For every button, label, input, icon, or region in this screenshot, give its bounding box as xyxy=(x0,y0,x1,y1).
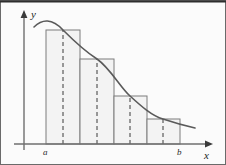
figure-canvas: y x a b xyxy=(0,0,226,165)
midpoint-rule-figure: y x a b xyxy=(0,0,226,165)
tick-label-a: a xyxy=(43,147,48,157)
y-axis-label: y xyxy=(30,8,36,20)
tick-label-b: b xyxy=(177,147,182,157)
x-axis-label: x xyxy=(203,149,209,161)
